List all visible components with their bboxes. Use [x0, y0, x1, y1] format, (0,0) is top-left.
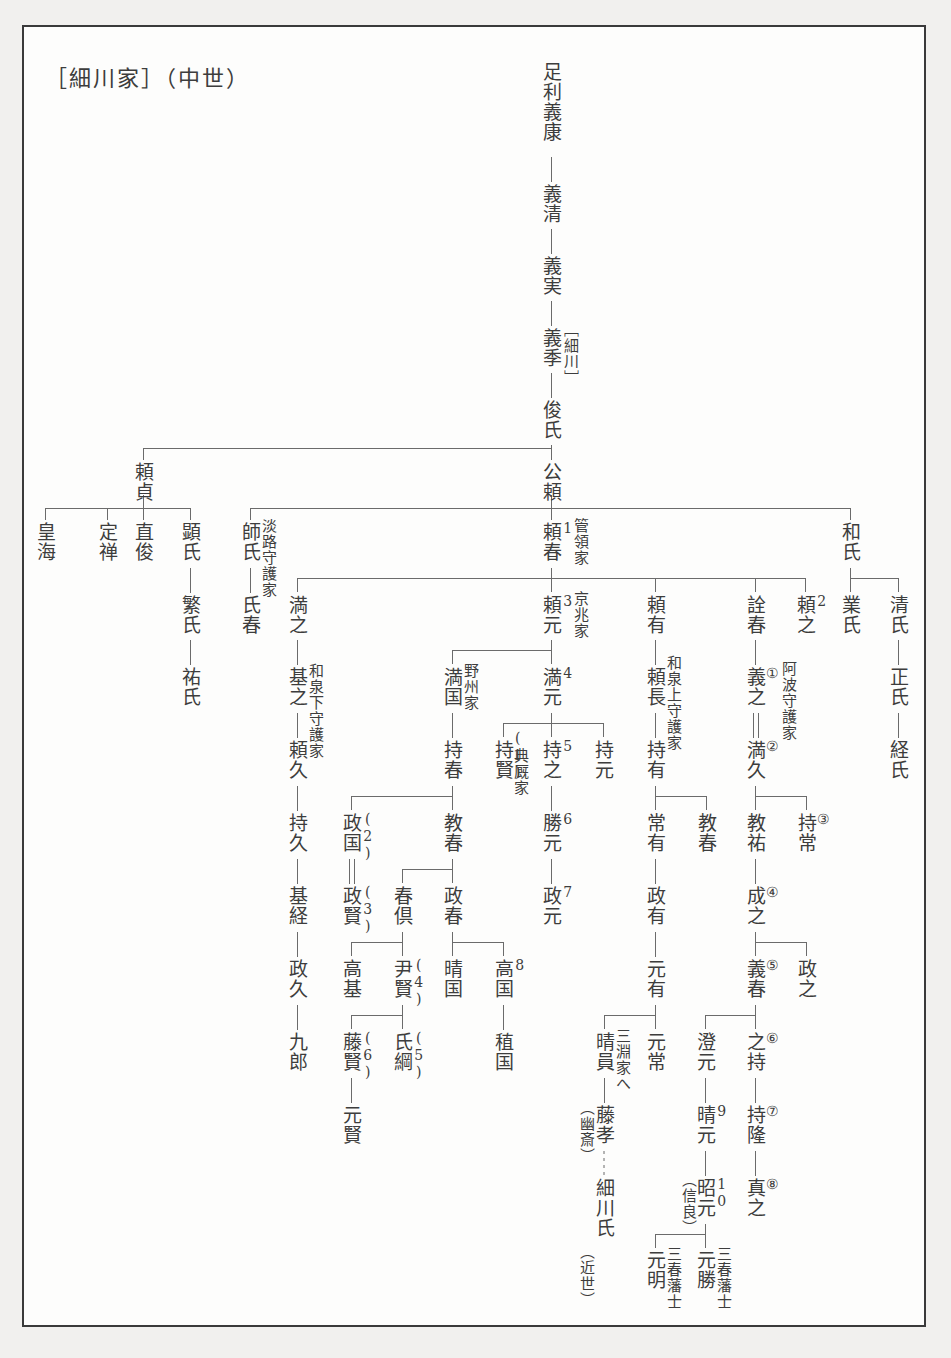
node-sumimoto: 澄元 [695, 1032, 714, 1072]
node-shigeuji: 繁氏 [180, 595, 199, 635]
order-number-yoshiharu: ⑤ [764, 957, 779, 974]
node-hosokawashi: 細川氏 [594, 1178, 613, 1238]
node-norisuke: 教祐 [745, 813, 764, 853]
node-jozen: 定禅 [97, 522, 116, 562]
node-tsuneari: 常有 [645, 813, 664, 853]
order-number-mochitaka: ⑦ [764, 1103, 779, 1120]
node-katsumoto: 勝元 [541, 813, 560, 853]
node-mochiari: 持有 [645, 740, 664, 780]
node-mochihisa: 持久 [287, 813, 306, 853]
node-mochiyuki: 持之 [541, 740, 560, 780]
node-ujitsuna: 氏綱 [392, 1032, 411, 1072]
node-yoriharu: 頼春 [541, 522, 560, 562]
node-nariuji: 業氏 [840, 595, 859, 635]
node-akimoto: 昭元 [695, 1178, 714, 1218]
node-tadakata: 尹賢 [392, 959, 411, 999]
order-number-tadakata: (4) [411, 957, 426, 1008]
label-nobuyoshi: （信良） [680, 1172, 696, 1236]
order-number-katsumoto: 6 [560, 811, 575, 828]
node-mototsune: 基経 [287, 886, 306, 926]
node-motokatsu: 元勝 [695, 1250, 714, 1290]
label-miharu-hanshi-2: 三春藩士 [715, 1246, 731, 1310]
node-masaharu: 政春 [442, 886, 461, 926]
node-toshiuji: 俊氏 [541, 400, 560, 440]
node-yoriari: 頼有 [645, 595, 664, 635]
node-masaari: 政有 [645, 886, 664, 926]
node-yukimochi: 之持 [745, 1032, 764, 1072]
node-yorihisa: 頼久 [287, 740, 306, 780]
order-number-masakata: (3) [360, 884, 375, 935]
node-ashikaga-yoshiyasu: 足利義康 [541, 62, 560, 142]
label-keichoke: 京兆家 [572, 591, 588, 639]
node-kinyori: 公頼 [541, 462, 560, 502]
node-yorimoto: 頼元 [541, 595, 560, 635]
order-number-akimoto: 10 [714, 1176, 729, 1210]
node-yoshisue: 義季 [541, 328, 560, 368]
node-motoaki: 元明 [645, 1250, 664, 1290]
node-mochimoto: 持元 [593, 740, 612, 780]
node-akiuji: 顕氏 [180, 522, 199, 562]
order-number-masamoto: 7 [560, 884, 575, 901]
label-kanreike: 管領家 [572, 518, 588, 566]
label-awa-shugoke: 阿波守護家 [780, 661, 796, 741]
node-harukuni: 晴国 [442, 959, 461, 999]
order-number-mitsuhisa: ② [764, 738, 779, 755]
node-yorisada: 頼貞 [133, 462, 152, 502]
node-mitsumoto: 満元 [541, 667, 560, 707]
node-yoshiyuki: 義之 [745, 667, 764, 707]
node-mototsune-izumi: 元常 [645, 1032, 664, 1072]
node-shigeyuki: 成之 [745, 886, 764, 926]
node-mitsuhisa: 満久 [745, 740, 764, 780]
label-yashuke: 野州家 [462, 663, 478, 711]
node-fujitaka: 藤孝 [594, 1105, 613, 1145]
node-motokata: 元賢 [341, 1105, 360, 1145]
node-naotoshi: 直俊 [133, 522, 152, 562]
node-tsuneuji: 経氏 [888, 740, 907, 780]
node-motoyuki: 基之 [287, 667, 306, 707]
node-saneyuki: 真之 [745, 1178, 764, 1218]
label-hosokawa: ［細川］ [562, 322, 578, 386]
node-kiyouji: 清氏 [888, 595, 907, 635]
node-yoshikiyo: 義清 [541, 184, 560, 224]
node-masakuni: 政国 [341, 813, 360, 853]
order-number-saneyuki: ⑧ [764, 1176, 779, 1193]
label-miharu-hanshi-1: 三春藩士 [665, 1246, 681, 1310]
label-awaji-shugoke: 淡路守護家 [260, 518, 276, 598]
node-noriharu-izumi: 教春 [696, 813, 715, 853]
node-yoshizane: 義実 [541, 256, 560, 296]
node-mitsuyuki: 満之 [287, 595, 306, 635]
label-mitsubuchi-ke-e: 三淵家へ [614, 1028, 630, 1092]
node-masakata: 政賢 [341, 886, 360, 926]
order-number-harumoto: 9 [714, 1103, 729, 1120]
order-number-ujitsuna: (5) [411, 1030, 426, 1081]
node-akiharu: 詮春 [745, 595, 764, 635]
node-kuro: 九郎 [287, 1032, 306, 1072]
order-number-mochitsune: ③ [815, 811, 830, 828]
label-tenkyuke: 典厩家 [512, 748, 528, 796]
order-number-mochiyuki: 5 [560, 738, 575, 755]
node-haruakazu: 晴員 [594, 1032, 613, 1072]
node-yorinaga: 頼長 [645, 667, 664, 707]
order-number-masakuni: (2) [360, 811, 375, 862]
node-mochiharu: 持春 [442, 740, 461, 780]
node-mochitsune: 持常 [796, 813, 815, 853]
label-kinsei: （近世） [578, 1244, 594, 1308]
node-mitsukuni: 満国 [442, 667, 461, 707]
node-takakuni: 高国 [493, 959, 512, 999]
node-noriharu: 教春 [442, 813, 461, 853]
node-yoshiharu: 義春 [745, 959, 764, 999]
node-ujiharu: 氏春 [240, 595, 259, 635]
order-number-takakuni: 8 [512, 957, 527, 974]
node-takamoto: 高基 [341, 959, 360, 999]
genealogy-chart-page: ［細川家］（中世） [0, 0, 951, 1358]
node-masauji: 正氏 [888, 667, 907, 707]
node-sukeuji: 祐氏 [180, 667, 199, 707]
node-fujikata: 藤賢 [341, 1032, 360, 1072]
node-kokai: 皇海 [35, 522, 54, 562]
node-masayuki: 政之 [796, 959, 815, 999]
node-tanekuni: 稙国 [493, 1032, 512, 1072]
node-motoari: 元有 [645, 959, 664, 999]
node-kazuuji: 和氏 [840, 522, 859, 562]
order-number-yoshiyuki: ① [764, 665, 779, 682]
order-number-shigeyuki: ④ [764, 884, 779, 901]
